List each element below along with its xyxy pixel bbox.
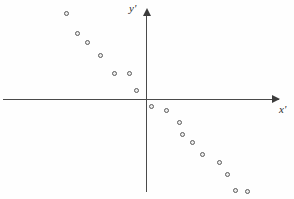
scatter-plot-figure: x' y' xyxy=(0,0,294,199)
data-point xyxy=(164,108,169,113)
data-points-layer xyxy=(0,0,294,199)
data-point xyxy=(190,140,195,145)
data-point xyxy=(217,160,222,165)
data-point xyxy=(225,172,230,177)
data-point xyxy=(200,152,205,157)
data-point xyxy=(180,132,185,137)
data-point xyxy=(134,88,139,93)
data-point xyxy=(64,11,69,16)
data-point xyxy=(149,104,154,109)
data-point xyxy=(85,40,90,45)
data-point xyxy=(112,71,117,76)
data-point xyxy=(98,53,103,58)
data-point xyxy=(177,120,182,125)
data-point xyxy=(245,189,250,194)
data-point xyxy=(127,71,132,76)
data-point xyxy=(233,188,238,193)
data-point xyxy=(75,31,80,36)
